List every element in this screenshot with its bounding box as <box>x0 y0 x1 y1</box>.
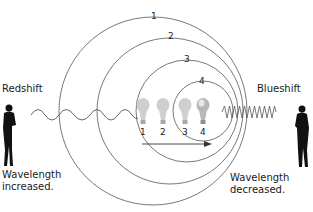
bulb-label-2: 2 <box>160 127 166 137</box>
wavefront-2 <box>97 38 243 184</box>
bulb-label-4: 4 <box>200 127 206 137</box>
bulb-3-icon <box>179 98 192 124</box>
wavefront-circles <box>59 17 247 205</box>
blueshift-wave <box>222 106 276 118</box>
note-right-line1: Wavelength <box>230 172 289 184</box>
note-left-line2: increased. <box>2 181 61 193</box>
wavefront-label-1: 1 <box>151 11 157 21</box>
motion-arrow <box>142 141 212 147</box>
wavefront-1 <box>59 17 247 205</box>
bulb-label-1: 1 <box>140 127 146 137</box>
wavefront-label-2: 2 <box>168 31 174 41</box>
bulb-4-icon <box>197 98 210 124</box>
observer-right-silhouette <box>295 106 309 168</box>
wavefront-label-3: 3 <box>184 54 190 64</box>
observer-left-silhouette <box>3 105 16 167</box>
wavelength-decreased-note: Wavelength decreased. <box>230 172 289 195</box>
note-right-line2: decreased. <box>230 184 289 196</box>
doppler-diagram: 1 2 3 4 1 2 3 4 Redshift Blueshift Wavel… <box>0 0 313 212</box>
wavelength-increased-note: Wavelength increased. <box>2 169 61 192</box>
bulb-2-icon <box>157 98 170 124</box>
bulb-label-3: 3 <box>182 127 188 137</box>
redshift-wave <box>31 110 138 121</box>
redshift-label: Redshift <box>2 83 43 95</box>
bulb-1-icon <box>137 98 150 124</box>
wavefront-label-4: 4 <box>199 76 205 86</box>
note-left-line1: Wavelength <box>2 169 61 181</box>
blueshift-label: Blueshift <box>257 83 301 95</box>
